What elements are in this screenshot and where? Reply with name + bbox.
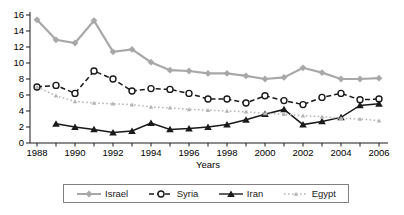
x-axis-tick-label: 2006 bbox=[368, 147, 389, 158]
triangle-marker bbox=[52, 120, 60, 127]
small-triangle-marker bbox=[301, 114, 306, 118]
legend-item-israel[interactable]: Israel bbox=[76, 188, 128, 199]
circle-marker bbox=[243, 100, 249, 106]
diamond-marker bbox=[376, 75, 383, 82]
legend: Israel Syria Iran Egypt bbox=[63, 184, 349, 203]
diamond-marker bbox=[186, 68, 193, 75]
circle-marker bbox=[158, 191, 164, 197]
legend-label-israel: Israel bbox=[105, 188, 128, 199]
y-axis-tick-label: 0 bbox=[19, 137, 24, 148]
circle-marker bbox=[110, 76, 116, 82]
circle-marker bbox=[186, 90, 192, 96]
small-triangle-marker bbox=[244, 110, 249, 114]
diamond-marker bbox=[205, 70, 212, 77]
y-axis-tick-label: 16 bbox=[13, 9, 24, 20]
circle-marker bbox=[224, 96, 230, 102]
small-triangle-marker bbox=[149, 105, 154, 109]
diamond-marker bbox=[86, 190, 93, 197]
diamond-marker bbox=[319, 69, 326, 76]
circle-marker bbox=[148, 86, 154, 92]
y-axis-tick-label: 6 bbox=[19, 89, 24, 100]
x-axis-tick-label: 1998 bbox=[216, 147, 237, 158]
x-axis-tick-label: 1996 bbox=[178, 147, 199, 158]
circle-marker bbox=[300, 102, 306, 108]
series-line-iran bbox=[56, 104, 379, 133]
diamond-marker bbox=[224, 70, 231, 77]
small-triangle-marker bbox=[320, 114, 325, 118]
iran-line-sample bbox=[218, 189, 244, 199]
chart-plot-area: 0246810121416198819901992199419961998200… bbox=[0, 0, 404, 215]
x-axis-tick-label: 1988 bbox=[26, 147, 47, 158]
x-axis-tick-label: 1990 bbox=[64, 147, 85, 158]
legend-label-egypt: Egypt bbox=[312, 188, 336, 199]
small-triangle-marker bbox=[225, 109, 230, 113]
y-axis-tick-label: 2 bbox=[19, 121, 24, 132]
circle-marker bbox=[262, 93, 268, 99]
legend-label-syria: Syria bbox=[177, 188, 199, 199]
circle-marker bbox=[53, 82, 59, 88]
triangle-marker bbox=[280, 106, 288, 113]
diamond-marker bbox=[357, 76, 364, 83]
small-triangle-marker bbox=[54, 94, 59, 98]
small-triangle-marker bbox=[377, 118, 382, 122]
x-axis-title: Years bbox=[196, 159, 220, 170]
x-axis-tick-label: 2000 bbox=[254, 147, 275, 158]
small-triangle-marker bbox=[168, 106, 173, 110]
egypt-line-sample bbox=[283, 189, 309, 199]
line-chart-figure: 0246810121416198819901992199419961998200… bbox=[0, 0, 404, 215]
circle-marker bbox=[319, 94, 325, 100]
series-israel bbox=[34, 16, 383, 82]
legend-item-syria[interactable]: Syria bbox=[148, 188, 199, 199]
x-axis-tick-label: 2004 bbox=[330, 147, 351, 158]
circle-marker bbox=[91, 68, 97, 74]
diamond-marker bbox=[262, 76, 269, 83]
y-axis-tick-label: 12 bbox=[13, 41, 24, 52]
israel-line-sample bbox=[76, 189, 102, 199]
diamond-marker bbox=[167, 67, 174, 74]
circle-marker bbox=[167, 86, 173, 92]
circle-marker bbox=[129, 88, 135, 94]
circle-marker bbox=[205, 96, 211, 102]
diamond-marker bbox=[338, 76, 345, 83]
syria-line-sample bbox=[148, 189, 174, 199]
legend-item-egypt[interactable]: Egypt bbox=[283, 188, 336, 199]
triangle-marker bbox=[147, 119, 155, 126]
circle-marker bbox=[72, 90, 78, 96]
diamond-marker bbox=[243, 72, 250, 79]
y-axis-tick-label: 8 bbox=[19, 73, 24, 84]
small-triangle-marker bbox=[293, 191, 298, 195]
legend-item-iran[interactable]: Iran bbox=[218, 188, 263, 199]
small-triangle-marker bbox=[73, 99, 78, 103]
x-axis-tick-label: 1994 bbox=[140, 147, 161, 158]
y-axis-tick-label: 14 bbox=[13, 25, 24, 36]
y-axis-tick-label: 10 bbox=[13, 57, 24, 68]
legend-label-iran: Iran bbox=[247, 188, 263, 199]
series-iran bbox=[52, 100, 383, 135]
x-axis-tick-label: 2002 bbox=[292, 147, 313, 158]
series-egypt bbox=[35, 85, 382, 123]
x-axis-tick-label: 1992 bbox=[102, 147, 123, 158]
series-line-egypt bbox=[37, 87, 379, 121]
y-axis-tick-label: 4 bbox=[19, 105, 24, 116]
circle-marker bbox=[338, 90, 344, 96]
circle-marker bbox=[281, 98, 287, 104]
